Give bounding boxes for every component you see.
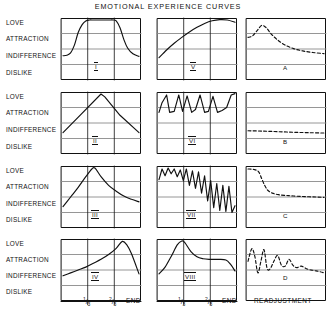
- panel-label-I: I: [94, 62, 98, 71]
- readjustment-label: READJUSTMENT: [254, 297, 312, 304]
- x-tick-end-col2: END: [222, 297, 237, 304]
- panel-label-VII: VII: [186, 210, 196, 219]
- panel-label-C: C: [283, 212, 288, 219]
- x-tick-two-thirds-col1: 2/3: [109, 296, 116, 307]
- x-tick-end-col1: END: [126, 297, 141, 304]
- panels-canvas: [0, 0, 336, 314]
- x-tick-denominator: 3: [114, 301, 117, 307]
- panel-label-VI: VI: [188, 136, 196, 145]
- x-tick-denominator: 3: [210, 301, 213, 307]
- panel-label-A: A: [283, 64, 287, 71]
- panel-label-IV: IV: [91, 272, 99, 281]
- panel-label-V: V: [190, 62, 196, 71]
- x-tick-one-third-col2: 1/3: [178, 296, 185, 307]
- x-tick-one-third-col1: 1/3: [83, 296, 90, 307]
- panel-label-III: III: [91, 210, 99, 219]
- panel-label-VIII: VIII: [184, 272, 196, 281]
- x-tick-denominator: 3: [183, 301, 186, 307]
- emotional-experience-curves-figure: EMOTIONAL EXPERIENCE CURVES LOVE ATTRACT…: [0, 0, 336, 314]
- panel-label-II: II: [92, 136, 98, 145]
- x-tick-two-thirds-col2: 2/3: [205, 296, 212, 307]
- x-tick-denominator: 3: [88, 301, 91, 307]
- panel-label-D: D: [283, 274, 288, 281]
- panel-label-B: B: [283, 138, 287, 145]
